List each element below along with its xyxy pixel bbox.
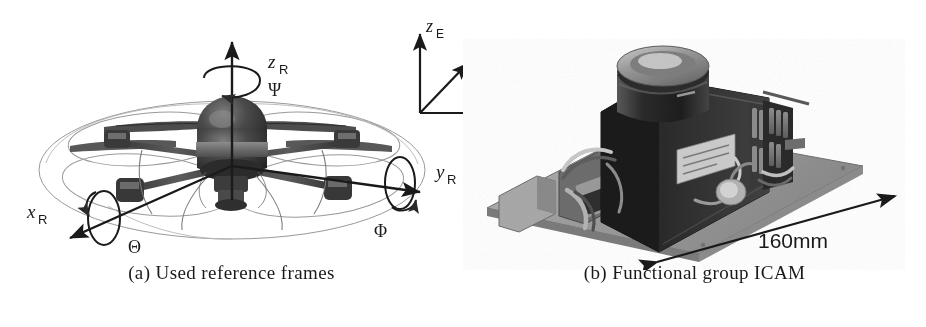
dimension-label-160mm: 160mm [758, 229, 828, 252]
subfigure-a: z R y R x R Ψ Φ Θ z [0, 0, 463, 327]
label-y-r-sub: R [447, 172, 456, 187]
caption-subfigure-a: (a) Used reference frames [0, 262, 463, 284]
earth-frame-labels: z E y E x E [425, 16, 463, 115]
rotation-phi-arc [385, 157, 416, 211]
label-z-e-sub: E [436, 27, 444, 41]
figure-container: z R y R x R Ψ Φ Θ z [0, 0, 926, 327]
label-phi: Φ [374, 221, 387, 241]
label-x-r-sub: R [38, 212, 47, 227]
axis-x-r [70, 166, 232, 238]
label-z-r-sub: R [279, 62, 288, 77]
label-x-r: x [26, 201, 36, 222]
label-theta: Θ [128, 237, 141, 257]
reference-frames-diagram: z R y R x R Ψ Φ Θ z [0, 0, 463, 270]
label-psi: Ψ [268, 80, 282, 100]
label-z-r: z [267, 51, 276, 72]
icam-hardware-photo: 160mm [463, 0, 926, 270]
caption-subfigure-b: (b) Functional group ICAM [463, 262, 926, 284]
subfigure-b: 160mm (b) Functional group ICAM [463, 0, 926, 327]
label-z-e: z [425, 16, 433, 36]
earth-frame-triad [420, 34, 463, 113]
label-y-r: y [434, 161, 445, 182]
